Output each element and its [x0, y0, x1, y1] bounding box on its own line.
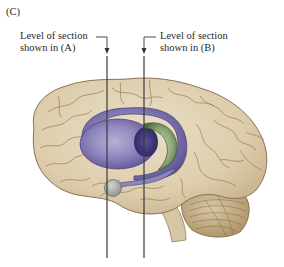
arrow-down-icon	[105, 48, 110, 54]
arrow-down-icon	[142, 48, 147, 54]
brain-illustration	[0, 0, 284, 267]
